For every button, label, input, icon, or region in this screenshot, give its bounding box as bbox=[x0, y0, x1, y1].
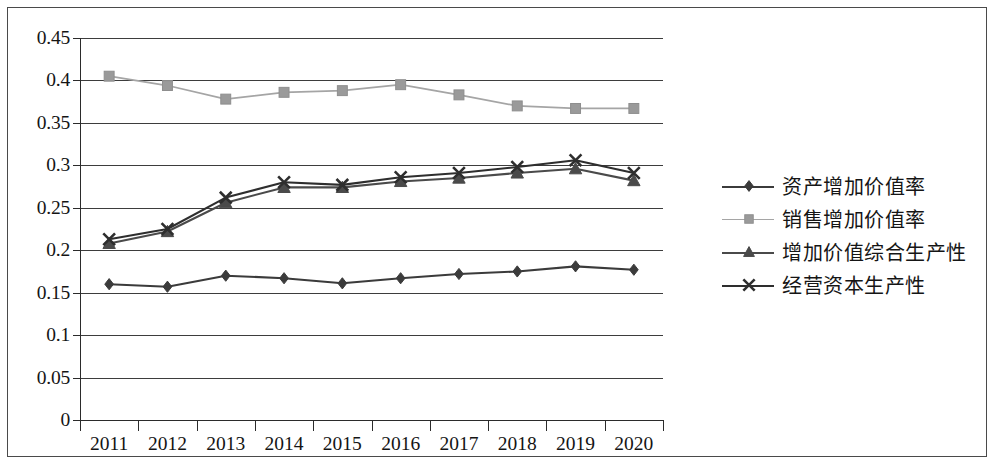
gridline bbox=[80, 378, 663, 379]
x-axis-tick-label: 2015 bbox=[313, 434, 371, 454]
y-axis-tick-label: 0.15 bbox=[8, 283, 70, 303]
legend-label: 资产增加价值率 bbox=[782, 176, 926, 198]
y-axis-tick-label: 0.05 bbox=[8, 368, 70, 388]
x-axis-tick bbox=[546, 420, 547, 431]
gridline bbox=[80, 335, 663, 336]
data-point-square bbox=[745, 214, 753, 222]
legend-label: 经营资本生产性 bbox=[782, 275, 926, 297]
legend-marker-cross-x-icon bbox=[722, 276, 774, 296]
y-axis-tick bbox=[73, 250, 81, 251]
y-axis-tick bbox=[73, 208, 81, 209]
gridline bbox=[80, 165, 663, 166]
legend-marker-glyph bbox=[742, 179, 756, 193]
legend-marker-triangle-icon bbox=[722, 243, 774, 263]
x-axis-tick bbox=[80, 420, 81, 431]
gridline bbox=[80, 208, 663, 209]
gridline bbox=[80, 38, 663, 39]
y-axis-tick bbox=[73, 335, 81, 336]
x-axis-tick-label: 2017 bbox=[430, 434, 488, 454]
legend-marker-square-icon bbox=[722, 210, 774, 230]
x-axis-tick-label: 2013 bbox=[197, 434, 255, 454]
x-axis-tick-label: 2011 bbox=[80, 434, 138, 454]
y-axis-tick-label: 0.45 bbox=[8, 28, 70, 48]
x-axis-tick-label: 2012 bbox=[138, 434, 196, 454]
y-axis-tick bbox=[73, 378, 81, 379]
data-point-triangle bbox=[744, 246, 755, 256]
legend-marker-glyph bbox=[742, 278, 756, 292]
data-point-cross-x bbox=[743, 279, 754, 290]
y-axis-tick bbox=[73, 293, 81, 294]
legend-item[interactable]: 销售增加价值率 bbox=[722, 203, 984, 236]
y-axis-tick bbox=[73, 80, 81, 81]
gridline bbox=[80, 80, 663, 81]
x-axis-tick bbox=[488, 420, 489, 431]
y-axis-tick-label: 0.4 bbox=[8, 70, 70, 90]
chart-legend: 资产增加价值率销售增加价值率增加价值综合生产性经营资本生产性 bbox=[722, 170, 984, 302]
legend-item[interactable]: 资产增加价值率 bbox=[722, 170, 984, 203]
x-axis-tick bbox=[138, 420, 139, 431]
legend-item[interactable]: 增加价值综合生产性 bbox=[722, 236, 984, 269]
gridline bbox=[80, 123, 663, 124]
legend-label: 增加价值综合生产性 bbox=[782, 242, 967, 264]
legend-item[interactable]: 经营资本生产性 bbox=[722, 269, 984, 302]
legend-marker-glyph bbox=[742, 212, 756, 226]
x-axis-tick-label: 2019 bbox=[546, 434, 604, 454]
x-axis-tick bbox=[605, 420, 606, 431]
y-axis-tick bbox=[73, 123, 81, 124]
legend-label: 销售增加价值率 bbox=[782, 209, 926, 231]
y-axis-tick-label: 0.35 bbox=[8, 113, 70, 133]
y-axis-tick-label: 0.1 bbox=[8, 325, 70, 345]
gridline bbox=[80, 293, 663, 294]
y-axis-tick bbox=[73, 165, 81, 166]
y-axis-tick-label: 0 bbox=[8, 410, 70, 430]
y-axis-tick-label: 0.3 bbox=[8, 155, 70, 175]
x-axis-tick bbox=[197, 420, 198, 431]
x-axis-tick bbox=[255, 420, 256, 431]
chart-figure: 0.450.40.350.30.250.20.150.10.050 201120… bbox=[0, 0, 996, 464]
y-axis-tick bbox=[73, 38, 81, 39]
x-axis-tick-label: 2016 bbox=[372, 434, 430, 454]
x-axis-tick bbox=[372, 420, 373, 431]
x-axis-tick bbox=[313, 420, 314, 431]
legend-marker-diamond-icon bbox=[722, 177, 774, 197]
x-axis-tick-label: 2020 bbox=[605, 434, 663, 454]
x-axis-tick bbox=[430, 420, 431, 431]
x-axis-tick bbox=[663, 420, 664, 431]
x-axis-tick-label: 2014 bbox=[255, 434, 313, 454]
y-axis-tick-label: 0.2 bbox=[8, 240, 70, 260]
y-axis-tick-label: 0.25 bbox=[8, 198, 70, 218]
y-axis-line bbox=[80, 38, 81, 422]
data-point-diamond bbox=[745, 180, 753, 191]
legend-marker-glyph bbox=[742, 245, 756, 259]
x-axis-tick-label: 2018 bbox=[488, 434, 546, 454]
gridline bbox=[80, 250, 663, 251]
